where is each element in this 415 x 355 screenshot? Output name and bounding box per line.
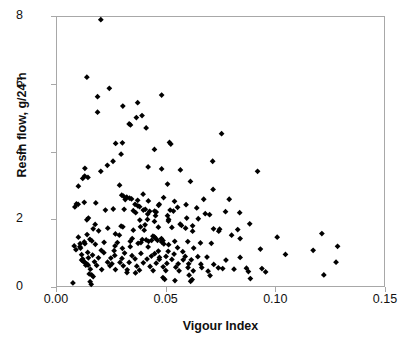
data-point bbox=[118, 151, 124, 157]
data-point bbox=[155, 224, 161, 230]
data-point bbox=[190, 268, 196, 274]
data-point bbox=[202, 211, 208, 217]
data-point bbox=[84, 232, 90, 238]
data-point bbox=[98, 17, 104, 23]
data-point bbox=[79, 252, 85, 258]
data-point bbox=[211, 262, 217, 268]
data-point bbox=[152, 219, 158, 225]
data-point bbox=[105, 225, 111, 231]
data-point bbox=[195, 216, 201, 222]
data-point bbox=[237, 255, 243, 261]
data-point bbox=[140, 260, 146, 266]
data-point bbox=[113, 267, 119, 273]
x-tick-mark bbox=[166, 287, 167, 292]
data-point bbox=[259, 266, 265, 272]
data-point bbox=[263, 269, 269, 275]
data-point bbox=[135, 100, 141, 106]
data-point bbox=[98, 168, 104, 174]
data-point bbox=[247, 276, 253, 282]
data-point bbox=[310, 247, 316, 253]
data-point bbox=[165, 181, 171, 187]
x-tick-mark bbox=[56, 287, 57, 292]
data-point bbox=[145, 217, 151, 223]
data-point bbox=[220, 266, 226, 272]
data-point bbox=[81, 199, 87, 205]
data-point bbox=[237, 236, 243, 242]
y-tick-label: 0 bbox=[0, 280, 23, 293]
data-point bbox=[145, 198, 151, 204]
data-point bbox=[171, 251, 177, 257]
data-point bbox=[283, 252, 289, 258]
data-point bbox=[231, 266, 237, 272]
data-point bbox=[111, 248, 117, 254]
data-point bbox=[204, 254, 210, 260]
y-tick-label: 2 bbox=[0, 212, 23, 225]
data-point bbox=[219, 131, 225, 137]
data-point bbox=[82, 165, 88, 171]
data-point bbox=[207, 212, 213, 218]
data-point bbox=[85, 249, 91, 255]
data-point bbox=[159, 166, 165, 172]
data-point bbox=[165, 248, 171, 254]
data-point bbox=[255, 168, 261, 174]
data-point bbox=[70, 280, 76, 286]
scatter-chart: Resin flow, g/24 h 02468 0.000.050.100.1… bbox=[0, 0, 415, 355]
data-point bbox=[75, 234, 81, 240]
data-point bbox=[201, 196, 207, 202]
data-point bbox=[101, 239, 107, 245]
data-points-layer bbox=[57, 17, 384, 286]
data-point bbox=[169, 225, 175, 231]
data-point bbox=[185, 265, 191, 271]
data-point bbox=[93, 200, 99, 206]
data-point bbox=[127, 244, 133, 250]
x-tick-mark bbox=[275, 287, 276, 292]
data-point bbox=[223, 257, 229, 263]
data-point bbox=[198, 240, 204, 246]
x-axis-title: Vigour Index bbox=[56, 319, 385, 333]
data-point bbox=[121, 206, 127, 212]
data-point bbox=[333, 259, 339, 265]
data-point bbox=[163, 254, 169, 260]
y-axis-title: Resin flow, g/24 h bbox=[15, 35, 29, 215]
data-point bbox=[75, 183, 81, 189]
data-point bbox=[96, 228, 102, 234]
data-point bbox=[190, 228, 196, 234]
data-point bbox=[126, 260, 132, 266]
data-point bbox=[211, 226, 217, 232]
x-tick-label: 0.15 bbox=[360, 293, 410, 306]
data-point bbox=[113, 141, 119, 147]
data-point bbox=[117, 182, 123, 188]
data-point bbox=[184, 215, 190, 221]
data-point bbox=[226, 196, 232, 202]
data-point bbox=[190, 223, 196, 229]
y-tick-label: 4 bbox=[0, 145, 23, 158]
data-point bbox=[159, 92, 165, 98]
data-point bbox=[130, 227, 136, 233]
data-point bbox=[84, 74, 90, 80]
data-point bbox=[166, 242, 172, 248]
data-point bbox=[235, 227, 241, 233]
x-tick-label: 0.10 bbox=[250, 293, 300, 306]
data-point bbox=[319, 231, 325, 237]
data-point bbox=[321, 272, 327, 278]
x-tick-label: 0.00 bbox=[31, 293, 81, 306]
data-point bbox=[175, 245, 181, 251]
data-point bbox=[139, 113, 145, 119]
data-point bbox=[186, 272, 192, 278]
data-point bbox=[145, 244, 151, 250]
data-point bbox=[95, 109, 101, 115]
data-point bbox=[120, 103, 126, 109]
data-point bbox=[183, 202, 189, 208]
data-point bbox=[99, 267, 105, 273]
data-point bbox=[210, 158, 216, 164]
data-point bbox=[172, 278, 178, 284]
data-point bbox=[110, 158, 116, 164]
data-point bbox=[133, 115, 139, 121]
data-point bbox=[96, 255, 102, 261]
data-point bbox=[110, 206, 116, 212]
data-point bbox=[161, 195, 167, 201]
data-point bbox=[247, 221, 253, 227]
data-point bbox=[191, 245, 197, 251]
data-point bbox=[137, 217, 143, 223]
data-point bbox=[172, 238, 178, 244]
